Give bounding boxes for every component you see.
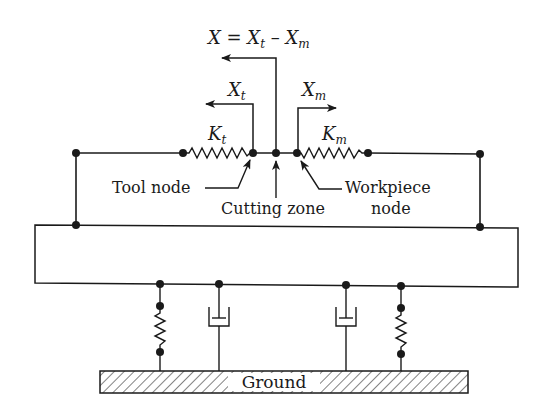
- ground-label: Ground: [242, 372, 307, 392]
- node-right-top: [476, 150, 484, 158]
- cutting-zone-label: Cutting zone: [221, 199, 325, 218]
- support-nodes: [156, 280, 405, 358]
- workpiece-label-line2: node: [371, 199, 411, 218]
- tool-spring-icon: [183, 148, 253, 158]
- right-top-link: [368, 153, 480, 154]
- node-kt-start: [179, 149, 187, 157]
- support-spring-left-icon: [155, 306, 165, 352]
- tool-node-label: Tool node: [112, 178, 191, 197]
- support-damper-left-icon: [209, 284, 229, 371]
- tool-stiffness-label: Kt: [207, 123, 226, 147]
- relative-displacement-arrow-icon: [222, 58, 276, 153]
- workpiece-displacement-label: Xm: [300, 79, 326, 103]
- support-damper-right-icon: [336, 285, 356, 371]
- node-km-end: [364, 149, 372, 157]
- workpiece-node-pointer-icon: [301, 161, 342, 189]
- workpiece-spring-icon: [297, 148, 368, 158]
- relative-displacement-equation: X = Xt – Xm: [206, 27, 310, 51]
- tool-node-pointer-icon: [205, 160, 250, 188]
- node-left-top: [72, 149, 80, 157]
- workpiece-node: [293, 149, 301, 157]
- machining-dynamics-diagram: Ground X = Xt – Xm Xt Xm Kt Km Tool node…: [0, 0, 550, 416]
- machine-base-box: [35, 225, 518, 287]
- tool-displacement-label: Xt: [226, 79, 246, 103]
- support-spring-right-icon: [396, 308, 406, 354]
- workpiece-stiffness-label: Km: [321, 123, 347, 147]
- workpiece-label-line1: Workpiece: [345, 178, 431, 197]
